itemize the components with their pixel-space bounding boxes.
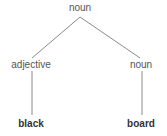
leaf-board: board (127, 119, 155, 129)
node-noun: noun (130, 60, 152, 70)
edge-root-noun (80, 17, 140, 58)
edge-root-adjective (32, 17, 80, 58)
node-adjective: adjective (11, 60, 50, 70)
root-node-noun: noun (69, 3, 91, 13)
leaf-black: black (18, 119, 44, 129)
